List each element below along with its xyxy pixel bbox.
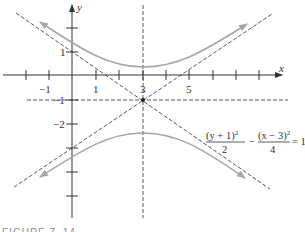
x-axis-label: x: [278, 62, 284, 74]
center-point: [141, 98, 145, 102]
equation-term1-denominator: 2: [222, 144, 227, 155]
x-tick-label: 1: [93, 83, 99, 95]
y-axis-label: y: [76, 1, 82, 13]
equation-equals: = 1: [292, 136, 305, 147]
figure-caption: FIGURE 7–14: [2, 227, 76, 232]
y-tick-label: −2: [53, 118, 65, 130]
equation: (y + 1)2 2 − (x − 3)2 4 = 1: [206, 129, 305, 155]
x-tick-label: −1: [39, 83, 51, 95]
x-tick-label: 3: [140, 83, 146, 95]
axes: [3, 5, 282, 218]
upper-branch-right: [143, 24, 247, 67]
upper-branch-left: [40, 22, 143, 67]
equation-term2-denominator: 4: [270, 144, 276, 155]
lower-branch-left: [40, 133, 143, 177]
hyperbola-figure: y x −1 1 3 5 1 −1 −2 (y + 1)2 2 − (x − 3…: [0, 0, 305, 232]
x-tick-label: 5: [186, 83, 192, 95]
equation-term1-numerator: (y + 1)2: [206, 129, 239, 142]
y-tick-label: 1: [60, 46, 66, 58]
equation-term2-numerator: (x − 3)2: [258, 129, 291, 142]
y-tick-label: −1: [53, 94, 65, 106]
asymptotes: [14, 5, 288, 218]
equation-operator: −: [249, 136, 255, 147]
